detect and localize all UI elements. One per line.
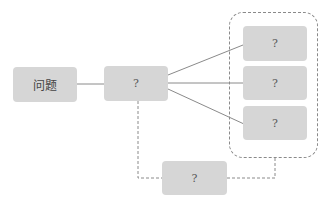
node-label: ? — [272, 77, 278, 90]
node-label: ? — [272, 117, 278, 130]
edge-middle-bottom — [138, 101, 162, 178]
node-right-2: ? — [243, 66, 307, 100]
diagram-canvas: 问题 ? ? ? ? ? — [0, 0, 330, 206]
edge-bottom-group — [227, 158, 275, 178]
node-root-problem: 问题 — [13, 67, 77, 102]
node-label: ? — [272, 37, 278, 50]
node-label: 问题 — [33, 76, 57, 93]
node-right-3: ? — [243, 106, 307, 140]
node-bottom: ? — [162, 161, 227, 195]
node-right-1: ? — [243, 26, 307, 61]
node-label: ? — [133, 77, 139, 90]
node-label: ? — [192, 172, 198, 185]
node-middle: ? — [104, 66, 168, 101]
